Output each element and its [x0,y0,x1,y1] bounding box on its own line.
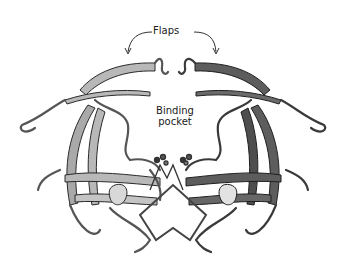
left-monomer [65,63,160,205]
protein-ribbon-diagram [0,0,346,273]
flaps-label: Flaps [153,25,179,36]
binding-pocket-label-line1: Binding [150,105,200,116]
right-monomer [186,63,281,205]
binding-pocket-label-line2: pocket [150,116,200,127]
binding-pocket-label: Binding pocket [150,105,200,127]
